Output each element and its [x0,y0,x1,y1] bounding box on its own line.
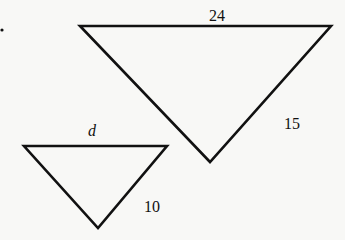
small-triangle [24,146,167,228]
similar-triangles-diagram: 24 15 d 10 [0,0,345,240]
large-top-side-label: 24 [209,7,225,24]
small-right-side-label: 10 [144,198,160,215]
bullet-dot [0,28,3,31]
large-triangle [80,26,331,162]
small-top-side-label: d [88,122,97,139]
large-right-side-label: 15 [284,115,300,132]
